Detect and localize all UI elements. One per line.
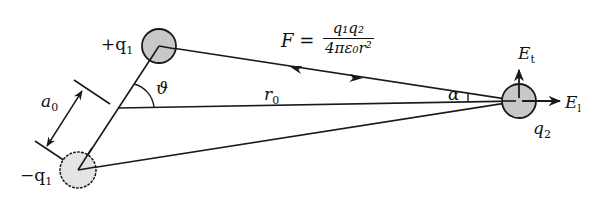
formula-fraction: q₁q₂ 4πε₀r² <box>323 21 374 56</box>
a0-tick-top <box>74 80 110 104</box>
field-transverse-label: Et <box>518 45 535 62</box>
negative-charge-label: −q1 <box>20 167 52 184</box>
test-charge-label: q2 <box>533 120 551 137</box>
theta-label: ϑ <box>156 80 168 97</box>
formula-denominator: 4πε₀r² <box>323 38 374 56</box>
positive-charge-label: +q1 <box>101 36 133 53</box>
dipole-diagram: +q1 −q1 q2 a0 ϑ r0 α Et El F = q₁q₂ 4πε₀… <box>0 0 610 199</box>
alpha-label: α <box>448 86 459 103</box>
force-line-negative <box>78 101 519 170</box>
theta-arc <box>134 84 154 107</box>
field-longitudinal-label: El <box>565 94 581 111</box>
separation-label: a0 <box>41 93 58 110</box>
formula-numerator: q₁q₂ <box>331 21 366 38</box>
distance-label: r0 <box>264 86 279 103</box>
formula-lhs: F = <box>281 32 314 50</box>
